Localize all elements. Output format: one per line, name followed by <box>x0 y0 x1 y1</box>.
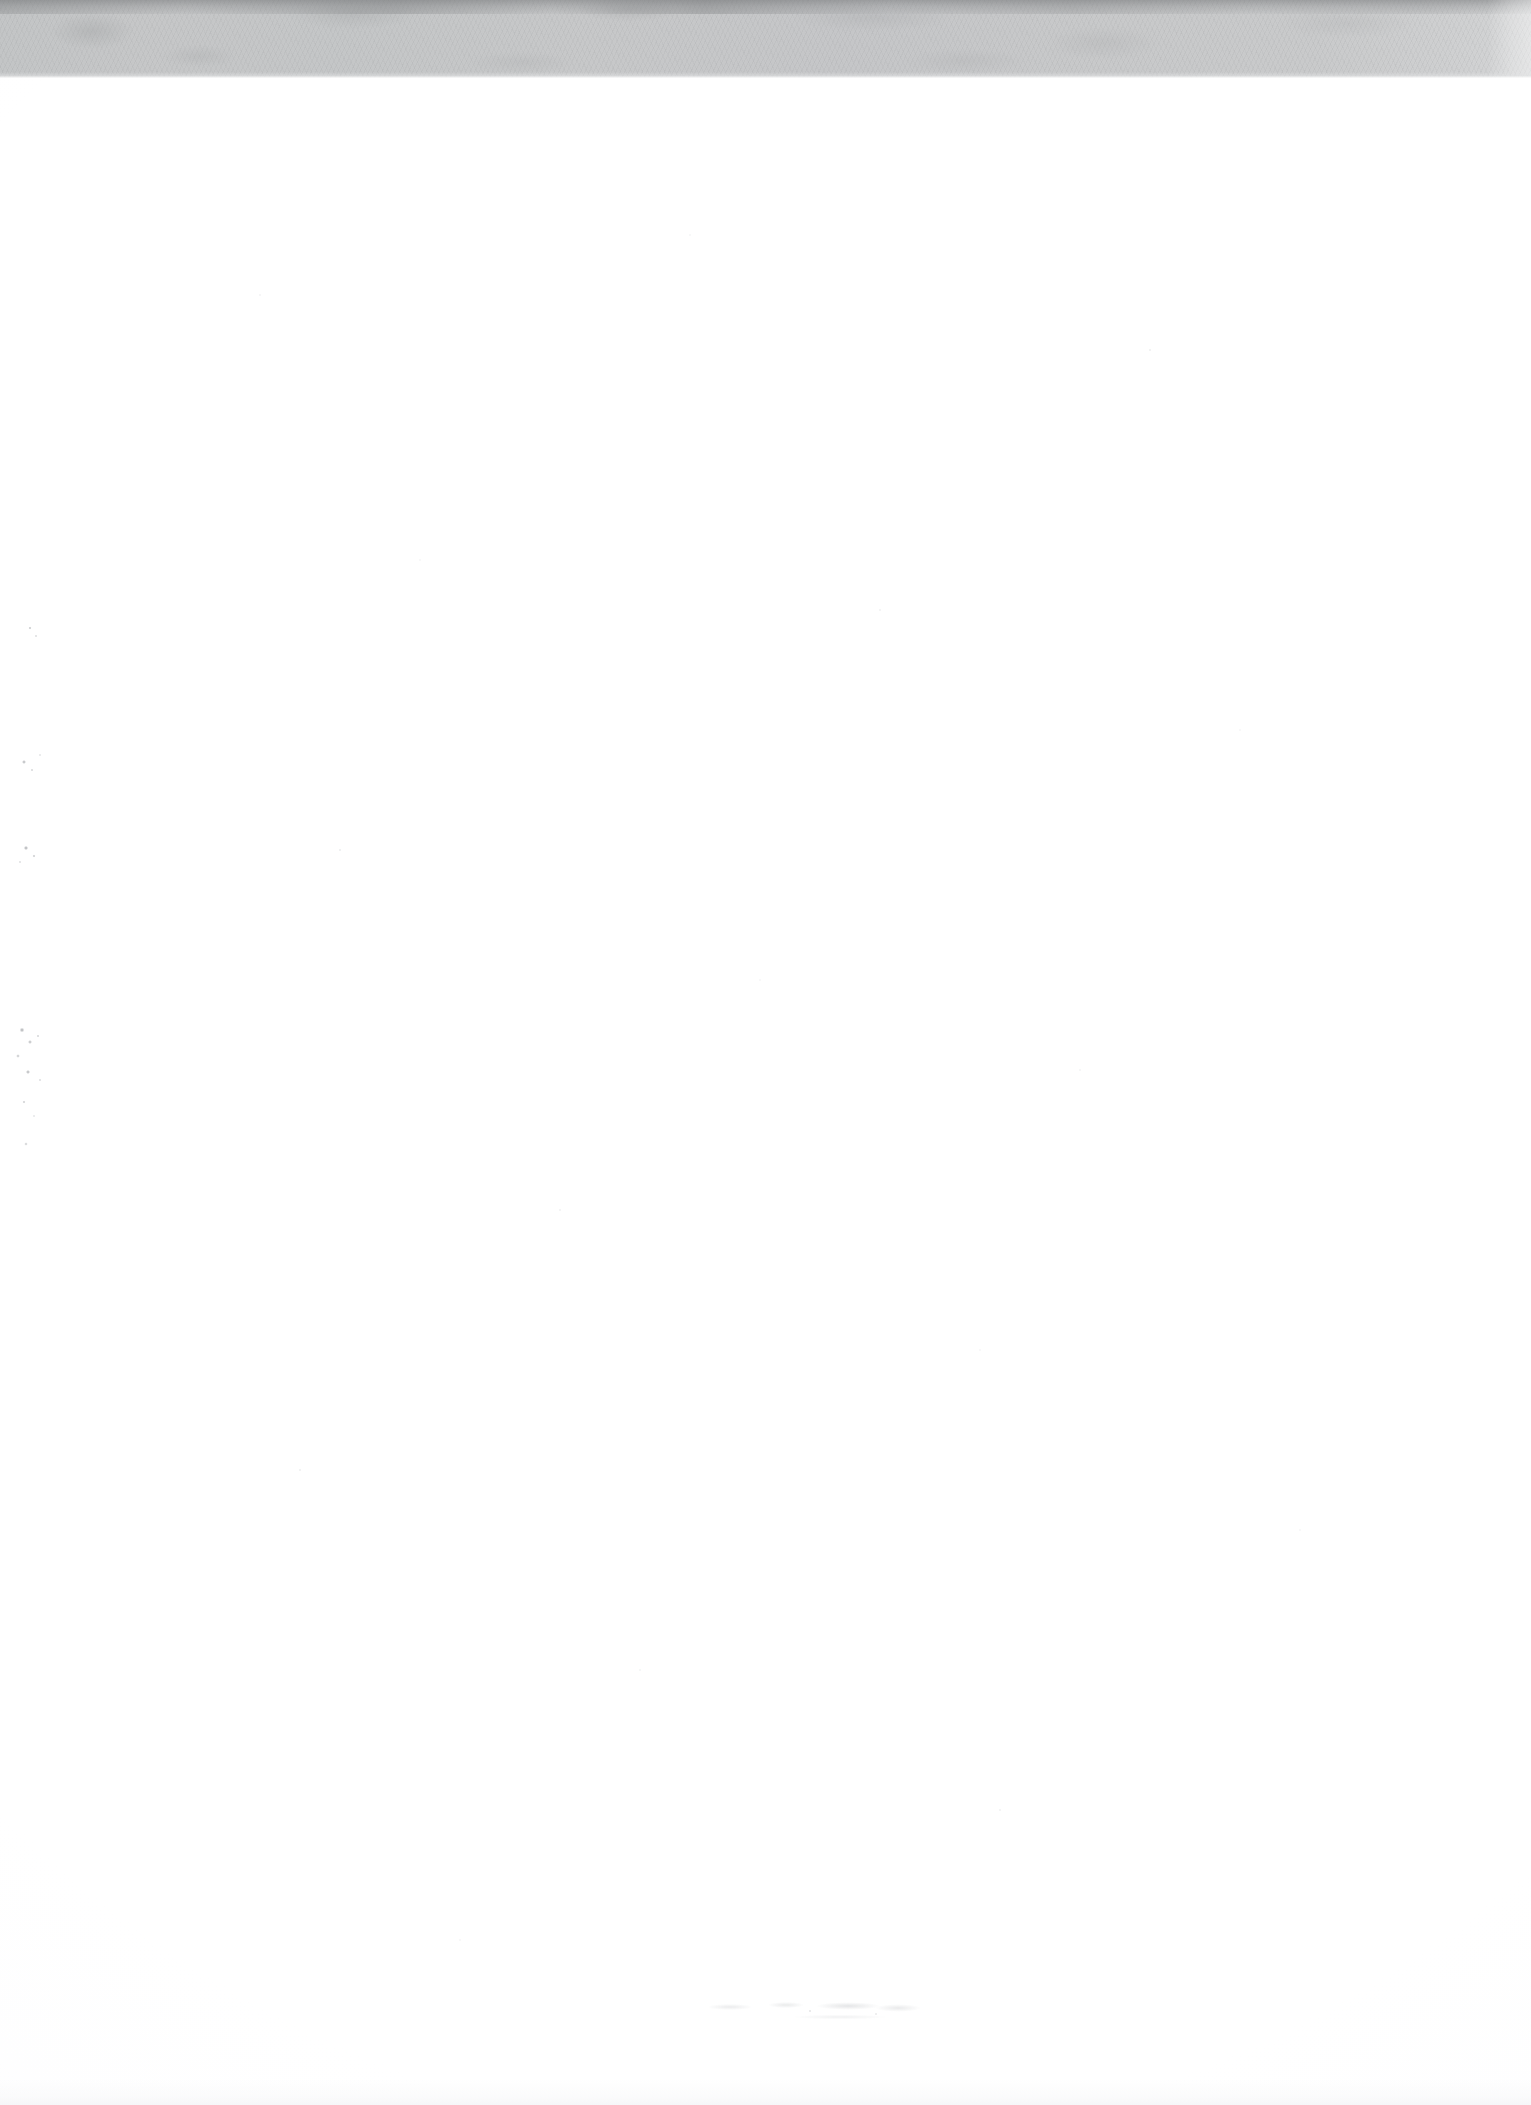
scan-band-top-streak <box>0 0 1531 14</box>
scan-band-bottom-feather <box>0 72 1531 78</box>
paper-background <box>0 0 1531 2105</box>
scanned-page <box>0 0 1531 2105</box>
top-scan-band <box>0 0 1531 78</box>
scan-band-right-highlight <box>1487 0 1531 78</box>
